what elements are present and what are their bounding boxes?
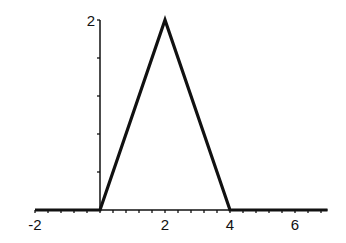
data-series-line <box>35 20 328 210</box>
x-tick-label: 6 <box>291 216 299 233</box>
x-axis-tick-labels: -2246 <box>28 216 299 233</box>
y-axis-tick-labels: 2 <box>87 12 95 29</box>
x-tick-label: -2 <box>28 216 41 233</box>
x-tick-label: 4 <box>226 216 234 233</box>
x-tick-label: 2 <box>161 216 169 233</box>
triangle-function-chart: -2246 2 <box>0 0 346 243</box>
y-tick-label: 2 <box>87 12 95 29</box>
